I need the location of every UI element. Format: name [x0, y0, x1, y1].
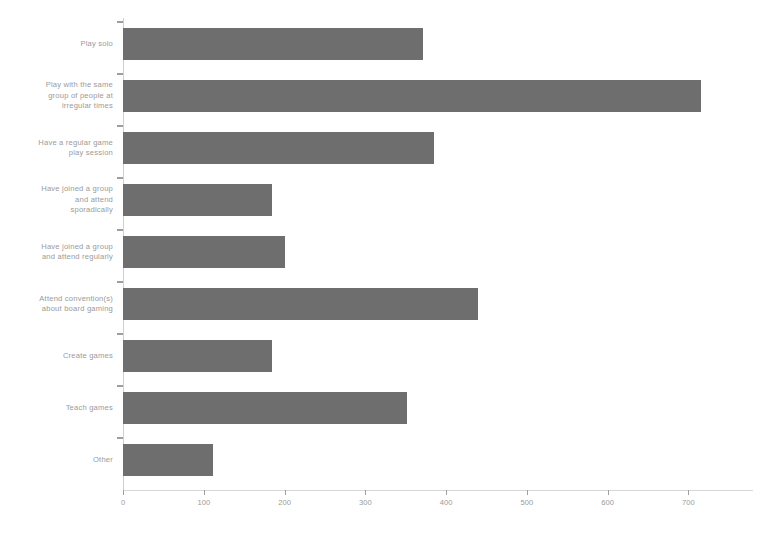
y-axis-label: Other — [8, 455, 113, 466]
x-axis-tick-label: 600 — [601, 498, 614, 507]
y-axis-label-line: group of people at — [8, 91, 113, 102]
y-axis-label-line: sporadically — [8, 205, 113, 216]
y-axis-label: Have a regular gameplay session — [8, 138, 113, 159]
x-axis-tick — [608, 490, 609, 495]
y-axis-label-line: Play solo — [8, 39, 113, 50]
y-axis-label-line: Teach games — [8, 403, 113, 414]
bar[interactable] — [123, 340, 272, 372]
y-axis-label-line: irregular times — [8, 101, 113, 112]
x-axis-tick-label: 400 — [440, 498, 453, 507]
x-axis-tick — [365, 490, 366, 495]
bar-chart: Play soloPlay with the samegroup of peop… — [0, 0, 770, 535]
y-axis-label: Have joined a groupand attendsporadicall… — [8, 184, 113, 216]
y-axis-tick — [117, 333, 123, 335]
bar-row — [123, 174, 753, 226]
y-axis-label: Attend convention(s)about board gaming — [8, 294, 113, 315]
y-axis-label: Teach games — [8, 403, 113, 414]
y-axis-label-line: play session — [8, 148, 113, 159]
bar[interactable] — [123, 132, 434, 164]
y-axis-label-line: Attend convention(s) — [8, 294, 113, 305]
bar-row — [123, 122, 753, 174]
y-axis-label-line: Have joined a group — [8, 184, 113, 195]
y-axis-tick — [117, 437, 123, 439]
x-axis-tick-label: 200 — [278, 498, 291, 507]
bar[interactable] — [123, 80, 701, 112]
bar-row — [123, 226, 753, 278]
x-axis-tick-label: 0 — [121, 498, 125, 507]
x-axis-tick — [688, 490, 689, 495]
bar[interactable] — [123, 392, 407, 424]
y-axis-label-line: Have a regular game — [8, 138, 113, 149]
y-axis-label-line: Have joined a group — [8, 242, 113, 253]
bar-row — [123, 18, 753, 70]
x-axis-tick-label: 300 — [359, 498, 372, 507]
x-axis-tick — [123, 490, 124, 495]
y-axis-label-line: about board gaming — [8, 304, 113, 315]
bar[interactable] — [123, 236, 285, 268]
bar[interactable] — [123, 28, 423, 60]
x-axis-tick-label: 500 — [521, 498, 534, 507]
x-axis-tick-label: 700 — [682, 498, 695, 507]
y-axis-label: Play with the samegroup of people atirre… — [8, 80, 113, 112]
x-axis-tick — [446, 490, 447, 495]
bar-row — [123, 382, 753, 434]
y-axis-tick — [117, 21, 123, 23]
bar[interactable] — [123, 288, 478, 320]
y-axis-label-line: Play with the same — [8, 80, 113, 91]
x-axis-tick — [285, 490, 286, 495]
bar[interactable] — [123, 184, 272, 216]
x-axis-tick-label: 100 — [197, 498, 210, 507]
plot-area — [123, 18, 753, 490]
y-axis-label: Have joined a groupand attend regularly — [8, 242, 113, 263]
y-axis-label: Play solo — [8, 39, 113, 50]
y-axis-label-line: Other — [8, 455, 113, 466]
y-axis-tick — [117, 385, 123, 387]
y-axis-tick — [117, 73, 123, 75]
x-axis-spine — [123, 490, 753, 491]
bar-row — [123, 330, 753, 382]
bar[interactable] — [123, 444, 213, 476]
y-axis-label-line: Create games — [8, 351, 113, 362]
y-axis-tick — [117, 229, 123, 231]
x-axis-tick — [204, 490, 205, 495]
bar-row — [123, 434, 753, 486]
x-axis-tick — [527, 490, 528, 495]
y-axis-label: Create games — [8, 351, 113, 362]
y-axis-label-line: and attend regularly — [8, 252, 113, 263]
y-axis-tick — [117, 177, 123, 179]
y-axis-label-line: and attend — [8, 195, 113, 206]
y-axis-tick — [117, 125, 123, 127]
bar-row — [123, 70, 753, 122]
y-axis-tick — [117, 281, 123, 283]
bar-row — [123, 278, 753, 330]
